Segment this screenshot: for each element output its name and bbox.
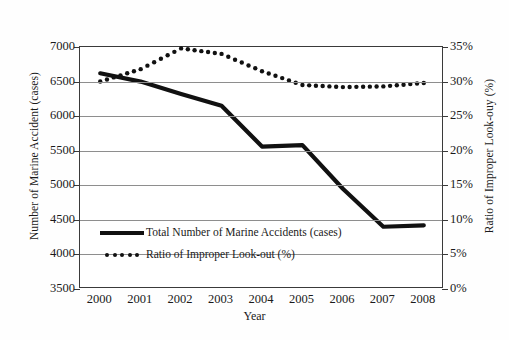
- chart-figure: Number of Marine Accident (cases) Ratio …: [0, 0, 509, 340]
- legend-item-accidents: Total Number of Marine Accidents (cases): [98, 222, 346, 244]
- y-axis-left-tick-label: 5000: [31, 177, 75, 192]
- x-axis-tick-label: 2001: [118, 292, 162, 307]
- y-axis-left-tick-label: 7000: [31, 39, 75, 54]
- gridline: [80, 185, 442, 186]
- solid-line-swatch-icon: [98, 231, 146, 235]
- tick-mark: [442, 47, 448, 48]
- x-axis-ticks: 200020012002200320042005200620072008: [79, 292, 443, 308]
- tick-mark: [442, 151, 448, 152]
- x-axis-title: Year: [0, 309, 509, 324]
- x-axis-tick-label: 2004: [239, 292, 283, 307]
- x-axis-tick-label: 2006: [320, 292, 364, 307]
- gridline: [80, 82, 442, 83]
- x-axis-tick-label: 2000: [77, 292, 121, 307]
- y-axis-right-tick-label: 25%: [450, 108, 490, 123]
- gridline: [80, 151, 442, 152]
- y-axis-left-tick-label: 4000: [31, 246, 75, 261]
- x-axis-tick-label: 2002: [158, 292, 202, 307]
- y-axis-right-tick-label: 15%: [450, 177, 490, 192]
- tick-mark: [442, 185, 448, 186]
- legend-item-lookout: Ratio of Improper Look-out (%): [98, 244, 346, 266]
- y-axis-right-tick-label: 20%: [450, 142, 490, 157]
- tick-mark: [442, 289, 448, 290]
- gridline: [80, 220, 442, 221]
- legend-label-accidents: Total Number of Marine Accidents (cases): [146, 227, 342, 239]
- y-axis-right-tick-label: 0%: [450, 281, 490, 296]
- x-axis-tick-label: 2003: [199, 292, 243, 307]
- y-axis-left-tick-label: 4500: [31, 211, 75, 226]
- y-axis-left-tick-label: 3500: [31, 281, 75, 296]
- y-axis-left-tick-label: 6000: [31, 108, 75, 123]
- y-axis-left-tick-label: 5500: [31, 142, 75, 157]
- tick-mark: [442, 116, 448, 117]
- y-axis-right-tick-label: 10%: [450, 211, 490, 226]
- tick-mark: [442, 254, 448, 255]
- y-axis-right-tick-label: 5%: [450, 246, 490, 261]
- tick-mark: [442, 82, 448, 83]
- chart-legend: Total Number of Marine Accidents (cases)…: [98, 222, 346, 266]
- y-axis-right-tick-label: 30%: [450, 73, 490, 88]
- x-axis-tick-label: 2007: [360, 292, 404, 307]
- tick-mark: [442, 220, 448, 221]
- y-axis-left-tick-label: 6500: [31, 73, 75, 88]
- y-axis-right-tick-label: 35%: [450, 39, 490, 54]
- gridline: [80, 116, 442, 117]
- x-axis-tick-label: 2005: [279, 292, 323, 307]
- dotted-line-swatch-icon: [98, 253, 146, 257]
- x-axis-tick-label: 2008: [401, 292, 445, 307]
- legend-label-lookout: Ratio of Improper Look-out (%): [146, 249, 295, 261]
